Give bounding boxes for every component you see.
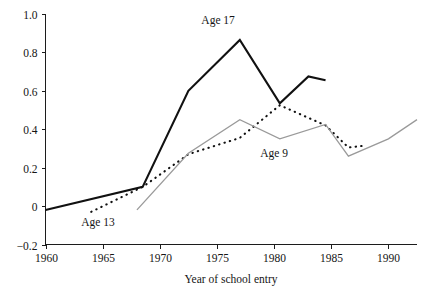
chart-figure: −0.200.20.40.60.81.0 1960196519701975198…	[0, 0, 436, 293]
x-tick-label-6: 1990	[377, 252, 400, 264]
series-label-age-13: Age 13	[81, 216, 115, 229]
x-axis-ticks	[47, 245, 389, 249]
x-tick-label-1: 1965	[92, 252, 115, 264]
line-chart-svg: −0.200.20.40.60.81.0 1960196519701975198…	[0, 0, 436, 293]
y-tick-label-1: 0	[32, 201, 38, 213]
series-line-age-13	[91, 105, 365, 212]
x-tick-label-3: 1975	[206, 252, 229, 264]
y-tick-label-5: 0.8	[23, 47, 38, 59]
series-label-age-17: Age 17	[201, 14, 235, 27]
x-tick-label-2: 1970	[149, 252, 172, 264]
y-tick-label-2: 0.2	[23, 163, 38, 175]
y-axis-tick-labels: −0.200.20.40.60.81.0	[17, 9, 38, 252]
series-annotations: Age 17Age 13Age 9	[81, 14, 288, 230]
x-axis-tick-labels: 1960196519701975198019851990	[35, 252, 400, 264]
y-tick-label-3: 0.4	[23, 124, 38, 136]
y-axis-ticks	[42, 15, 46, 246]
series-line-age-9	[137, 120, 417, 210]
series-label-age-9: Age 9	[260, 147, 288, 160]
y-tick-label-6: 1.0	[23, 9, 38, 21]
x-tick-label-5: 1985	[320, 252, 343, 264]
y-tick-label-4: 0.6	[23, 86, 38, 98]
series-line-age-17	[46, 40, 326, 210]
x-tick-label-0: 1960	[35, 252, 58, 264]
data-series-group	[46, 40, 418, 212]
y-tick-label-0: −0.2	[17, 240, 38, 252]
x-axis-title: Year of school entry	[184, 273, 277, 286]
x-tick-label-4: 1980	[263, 252, 286, 264]
